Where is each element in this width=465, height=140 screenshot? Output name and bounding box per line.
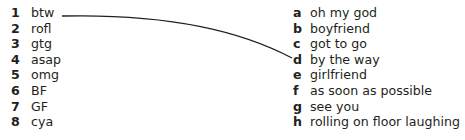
meaning-text: rolling on floor laughing	[310, 114, 460, 129]
abbreviation-item: 1btw	[11, 5, 61, 21]
meaning-text: see you	[310, 99, 359, 114]
meaning-item: fas soon as possible	[293, 83, 460, 99]
meaning-item: dby the way	[293, 52, 460, 68]
meaning-item: hrolling on floor laughing	[293, 114, 460, 130]
meaning-text: girlfriend	[310, 67, 367, 82]
meaning-text: as soon as possible	[310, 83, 432, 98]
item-letter: b	[293, 21, 310, 37]
meaning-text: boyfriend	[310, 21, 370, 36]
item-letter: c	[293, 36, 310, 52]
abbreviation-item: 6BF	[11, 83, 61, 99]
abbreviation-term: GF	[31, 99, 48, 114]
item-number: 1	[11, 5, 31, 21]
item-number: 8	[11, 114, 31, 130]
meaning-item: aoh my god	[293, 5, 460, 21]
abbreviation-item: 4asap	[11, 52, 61, 68]
meaning-item: cgot to go	[293, 36, 460, 52]
item-number: 3	[11, 36, 31, 52]
item-letter: a	[293, 5, 310, 21]
abbreviation-list: 1btw 2rofl 3gtg 4asap 5omg 6BF 7GF 8cya	[11, 5, 61, 130]
abbreviation-item: 5omg	[11, 67, 61, 83]
item-letter: d	[293, 52, 310, 68]
item-letter: g	[293, 99, 310, 115]
abbreviation-term: asap	[31, 52, 61, 67]
abbreviation-item: 8cya	[11, 114, 61, 130]
meaning-item: bboyfriend	[293, 21, 460, 37]
item-number: 2	[11, 21, 31, 37]
abbreviation-item: 2rofl	[11, 21, 61, 37]
abbreviation-item: 7GF	[11, 99, 61, 115]
item-letter: f	[293, 83, 310, 99]
abbreviation-term: gtg	[31, 36, 52, 51]
meaning-item: egirlfriend	[293, 67, 460, 83]
item-letter: e	[293, 67, 310, 83]
match-curve	[62, 16, 292, 58]
abbreviation-term: btw	[31, 5, 54, 20]
item-letter: h	[293, 114, 310, 130]
abbreviation-item: 3gtg	[11, 36, 61, 52]
abbreviation-term: omg	[31, 67, 59, 82]
meaning-text: got to go	[310, 36, 367, 51]
item-number: 7	[11, 99, 31, 115]
item-number: 6	[11, 83, 31, 99]
meaning-text: oh my god	[310, 5, 377, 20]
abbreviation-term: BF	[31, 83, 47, 98]
abbreviation-term: rofl	[31, 21, 52, 36]
item-number: 4	[11, 52, 31, 68]
meaning-text: by the way	[310, 52, 380, 67]
meaning-item: gsee you	[293, 99, 460, 115]
meaning-list: aoh my god bboyfriend cgot to go dby the…	[293, 5, 460, 130]
item-number: 5	[11, 67, 31, 83]
abbreviation-term: cya	[31, 114, 53, 129]
